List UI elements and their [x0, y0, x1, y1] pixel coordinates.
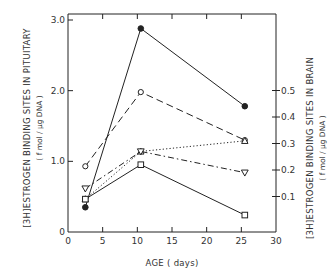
left-y-axis-label: ESTROGEN BINDING SITES IN PITUITARY [22, 28, 32, 209]
y-tick-label: 2.0 [51, 86, 66, 96]
y-tick-label: 3.0 [51, 15, 66, 25]
open-circle-marker [83, 164, 88, 169]
plot-frame [68, 14, 276, 232]
x-tick-label: 30 [270, 236, 282, 246]
series-brain-triangle-up [82, 137, 248, 201]
left-y-axis-isotope: 3H [22, 212, 32, 224]
x-tick-label: 0 [65, 236, 71, 246]
series-brain-square [83, 162, 248, 218]
x-tick-label: 20 [201, 236, 213, 246]
y2-tick-label: 0.4 [281, 112, 296, 122]
open-square-marker [138, 162, 144, 168]
y-tick-label: 0 [59, 227, 65, 237]
x-tick-label: 15 [166, 236, 177, 246]
right-y-axis-isotope: 3H [305, 223, 315, 235]
right-y-axis-units-text: ( f mol / µg DNA ) [318, 115, 327, 180]
left-y-axis-units: ( f mol / µg DNA ) [35, 95, 44, 160]
open-square-marker [83, 196, 89, 202]
left-y-axis-title: [3H]ESTROGEN BINDING SITES IN PITUITARY [22, 28, 32, 228]
plot-axes: 05101520253001.02.03.00.10.20.30.40.5 [51, 14, 296, 246]
open-circle-marker [138, 89, 143, 94]
left-y-axis-units-text: ( f mol / µg DNA ) [35, 95, 44, 160]
right-y-axis-units: ( f mol / µg DNA ) [318, 115, 327, 180]
series-pituitary-open-circle [83, 89, 248, 168]
y2-tick-label: 0.1 [281, 192, 295, 202]
x-tick-label: 10 [132, 236, 144, 246]
open-square-marker [242, 212, 248, 218]
series-line [85, 151, 244, 188]
filled-circle-marker [138, 26, 144, 32]
x-tick-label: 25 [236, 236, 247, 246]
y-tick-label: 1.0 [51, 156, 66, 166]
x-tick-label: 5 [100, 236, 106, 246]
series-line [85, 28, 244, 207]
filled-circle-marker [83, 204, 89, 210]
x-axis-title: AGE ( days) [145, 258, 198, 268]
series-line [85, 141, 244, 199]
filled-circle-marker [242, 103, 248, 109]
y2-tick-label: 0.3 [281, 139, 295, 149]
right-y-axis-label: ESTROGEN BINDING SITES IN BRAIN [305, 57, 315, 219]
svg-text:[3H]ESTROGEN BINDING SITES: [3H]ESTROGEN BINDING SITES IN PITUITARY [22, 28, 32, 228]
y2-tick-label: 0.2 [281, 165, 295, 175]
chart: 05101520253001.02.03.00.10.20.30.40.5 AG… [0, 0, 332, 276]
series-pituitary-filled-circle [83, 26, 248, 210]
svg-text:[3H]ESTROGEN BINDING SITES: [3H]ESTROGEN BINDING SITES IN BRAIN [305, 57, 315, 239]
triangle-down-marker [241, 170, 248, 176]
y2-tick-label: 0.5 [281, 86, 295, 96]
right-y-axis-title: [3H]ESTROGEN BINDING SITES IN BRAIN [305, 57, 315, 239]
plot-series [82, 26, 248, 218]
triangle-down-marker [82, 186, 89, 192]
